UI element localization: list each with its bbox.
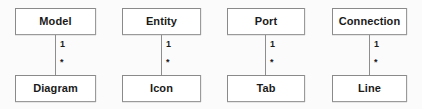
multiplicity-source-label: 1 — [270, 40, 275, 49]
class-box-source[interactable]: Port — [227, 8, 305, 35]
class-box-target[interactable]: Icon — [122, 75, 201, 102]
association-connector — [369, 35, 370, 75]
multiplicity-source-label: 1 — [60, 40, 65, 49]
uml-class-diagram: Model 1 * Diagram Entity 1 * Icon Port 1… — [0, 0, 422, 109]
association-connector — [161, 35, 162, 75]
class-name-label: Line — [358, 83, 381, 94]
association-connector — [55, 35, 56, 75]
multiplicity-target-label: * — [60, 58, 64, 67]
class-box-source[interactable]: Connection — [332, 8, 407, 35]
class-name-label: Model — [39, 16, 71, 27]
class-name-label: Diagram — [33, 83, 78, 94]
multiplicity-target-label: * — [270, 58, 274, 67]
association-connector — [265, 35, 266, 75]
multiplicity-target-label: * — [166, 58, 170, 67]
class-name-label: Icon — [150, 83, 173, 94]
class-name-label: Entity — [146, 16, 177, 27]
class-box-source[interactable]: Model — [15, 8, 96, 35]
multiplicity-target-label: * — [374, 58, 378, 67]
class-relationship-group: Entity 1 * Icon — [122, 0, 201, 109]
class-name-label: Tab — [256, 83, 275, 94]
class-relationship-group: Port 1 * Tab — [227, 0, 305, 109]
class-box-target[interactable]: Tab — [227, 75, 305, 102]
class-name-label: Port — [255, 16, 277, 27]
class-box-target[interactable]: Line — [332, 75, 407, 102]
class-box-source[interactable]: Entity — [122, 8, 201, 35]
class-relationship-group: Connection 1 * Line — [332, 0, 407, 109]
class-name-label: Connection — [339, 16, 401, 27]
multiplicity-source-label: 1 — [166, 40, 171, 49]
class-relationship-group: Model 1 * Diagram — [15, 0, 96, 109]
multiplicity-source-label: 1 — [374, 40, 379, 49]
class-box-target[interactable]: Diagram — [15, 75, 96, 102]
